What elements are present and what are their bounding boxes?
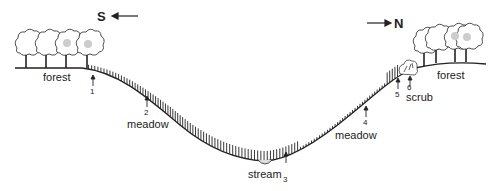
point-2-label: 2	[144, 109, 148, 117]
forest-right-trees	[413, 23, 483, 66]
forest-right-label: forest	[437, 70, 465, 81]
north-label: N	[394, 17, 403, 30]
meadow-left-label: meadow	[127, 119, 169, 130]
scrub-label: scrub	[406, 92, 433, 103]
point-4-label: 4	[363, 119, 367, 127]
stream-label: stream	[248, 169, 282, 180]
point-1-label: 1	[90, 88, 94, 96]
direction-arrows	[112, 13, 391, 26]
point-5-label: 5	[395, 91, 399, 99]
meadow-hatching	[89, 65, 398, 161]
forest-left-trees	[15, 29, 104, 68]
transect-diagram: S N forest 1 2 meadow stream 3 4 meadow …	[0, 0, 494, 191]
point-3-label: 3	[283, 176, 287, 184]
meadow-right-label: meadow	[335, 130, 377, 141]
south-label: S	[97, 10, 106, 23]
forest-left-label: forest	[43, 72, 71, 83]
scrub-bushes	[399, 60, 418, 75]
stream-channel	[258, 160, 272, 164]
ground-line	[15, 63, 486, 161]
